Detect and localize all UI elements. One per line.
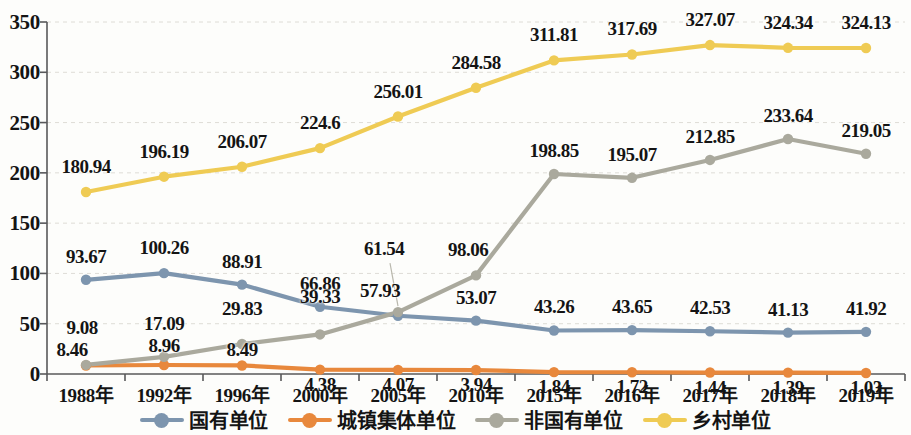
data-label-乡村单位: 324.34 <box>763 12 812 34</box>
data-label-乡村单位: 284.58 <box>451 52 500 74</box>
data-label-国有单位: 53.07 <box>456 287 496 309</box>
data-label-非国有单位: 29.83 <box>222 298 262 320</box>
data-label-非国有单位: 9.08 <box>66 317 97 339</box>
data-label-国有单位: 88.91 <box>222 251 262 273</box>
data-label-非国有单位: 212.85 <box>685 126 734 148</box>
data-label-国有单位: 41.92 <box>846 298 886 320</box>
data-point-marker <box>783 134 793 144</box>
legend-marker-icon <box>288 412 332 428</box>
data-label-乡村单位: 224.6 <box>300 112 340 134</box>
data-label-乡村单位: 327.07 <box>685 9 734 31</box>
data-point-marker <box>81 275 91 285</box>
data-point-marker <box>861 148 871 158</box>
x-axis: 1988年1992年1996年2000年2005年2010年2015年2016年… <box>0 378 911 404</box>
data-label-乡村单位: 317.69 <box>607 18 656 40</box>
data-point-marker <box>237 162 247 172</box>
data-point-marker <box>237 279 247 289</box>
x-tick-label: 1992年 <box>136 380 191 407</box>
legend-item[interactable]: 非国有单位 <box>475 405 623 434</box>
x-tick-label: 2019年 <box>838 380 893 407</box>
data-label-国有单位: 43.26 <box>534 296 574 318</box>
data-label-乡村单位: 311.81 <box>530 24 578 46</box>
data-point-marker <box>81 187 91 197</box>
data-point-marker <box>315 143 325 153</box>
data-point-marker <box>237 360 247 370</box>
data-label-非国有单位: 198.85 <box>529 140 578 162</box>
data-label-非国有单位: 98.06 <box>448 239 488 261</box>
legend-marker-icon <box>643 412 687 428</box>
data-label-非国有单位: 39.33 <box>300 286 340 308</box>
series-markers <box>81 40 871 378</box>
data-point-marker <box>783 327 793 337</box>
data-label-非国有单位: 195.07 <box>607 144 656 166</box>
data-label-非国有单位: 219.05 <box>841 120 890 142</box>
data-label-城镇集体单位: 8.96 <box>148 335 179 357</box>
data-label-乡村单位: 324.13 <box>841 12 890 34</box>
data-point-marker <box>627 173 637 183</box>
x-tick-label: 2015年 <box>526 380 581 407</box>
data-label-非国有单位: 17.09 <box>144 313 184 335</box>
data-label-乡村单位: 256.01 <box>373 81 422 103</box>
data-point-marker <box>393 111 403 121</box>
legend-marker-icon <box>475 412 519 428</box>
data-label-城镇集体单位: 8.46 <box>56 339 87 361</box>
legend-label: 国有单位 <box>189 405 268 434</box>
data-label-乡村单位: 196.19 <box>139 141 188 163</box>
data-point-marker <box>159 268 169 278</box>
x-tick-label: 1988年 <box>58 380 113 407</box>
data-point-marker <box>315 329 325 339</box>
data-point-marker <box>549 55 559 65</box>
data-point-marker <box>627 49 637 59</box>
legend-item[interactable]: 国有单位 <box>140 405 268 434</box>
data-point-marker <box>549 325 559 335</box>
data-label-国有单位: 100.26 <box>139 237 188 259</box>
data-label-乡村单位: 180.94 <box>61 156 110 178</box>
data-label-国有单位: 57.93 <box>360 280 400 302</box>
data-point-marker <box>471 270 481 280</box>
data-point-marker <box>627 325 637 335</box>
data-label-国有单位: 41.13 <box>768 299 808 321</box>
legend-item[interactable]: 乡村单位 <box>643 405 771 434</box>
x-tick-label: 1996年 <box>214 380 269 407</box>
data-point-marker <box>471 83 481 93</box>
line-chart: 050100150200250300350 93.67100.2688.9166… <box>0 0 911 435</box>
x-tick-label: 2017年 <box>682 380 737 407</box>
data-label-非国有单位: 61.54 <box>364 238 404 260</box>
data-label-非国有单位: 233.64 <box>763 105 812 127</box>
chart-legend: 国有单位城镇集体单位非国有单位乡村单位 <box>0 404 911 435</box>
data-point-marker <box>705 40 715 50</box>
data-label-国有单位: 43.65 <box>612 296 652 318</box>
data-point-marker <box>783 43 793 53</box>
data-point-marker <box>861 327 871 337</box>
data-point-marker <box>471 315 481 325</box>
legend-label: 非国有单位 <box>524 405 623 434</box>
data-label-国有单位: 93.67 <box>66 246 106 268</box>
x-tick-label: 2000年 <box>292 380 347 407</box>
data-label-城镇集体单位: 8.49 <box>226 339 257 361</box>
data-point-marker <box>861 43 871 53</box>
data-point-marker <box>549 169 559 179</box>
data-label-乡村单位: 206.07 <box>217 131 266 153</box>
legend-marker-icon <box>140 412 184 428</box>
data-label-国有单位: 42.53 <box>690 297 730 319</box>
data-point-marker <box>705 326 715 336</box>
legend-label: 乡村单位 <box>692 405 771 434</box>
x-tick-label: 2016年 <box>604 380 659 407</box>
x-tick-label: 2018年 <box>760 380 815 407</box>
data-point-marker <box>393 307 403 317</box>
legend-item[interactable]: 城镇集体单位 <box>288 405 455 434</box>
data-point-marker <box>159 171 169 181</box>
legend-label: 城镇集体单位 <box>337 405 455 434</box>
data-point-marker <box>705 155 715 165</box>
x-tick-label: 2010年 <box>448 380 503 407</box>
x-tick-label: 2005年 <box>370 380 425 407</box>
